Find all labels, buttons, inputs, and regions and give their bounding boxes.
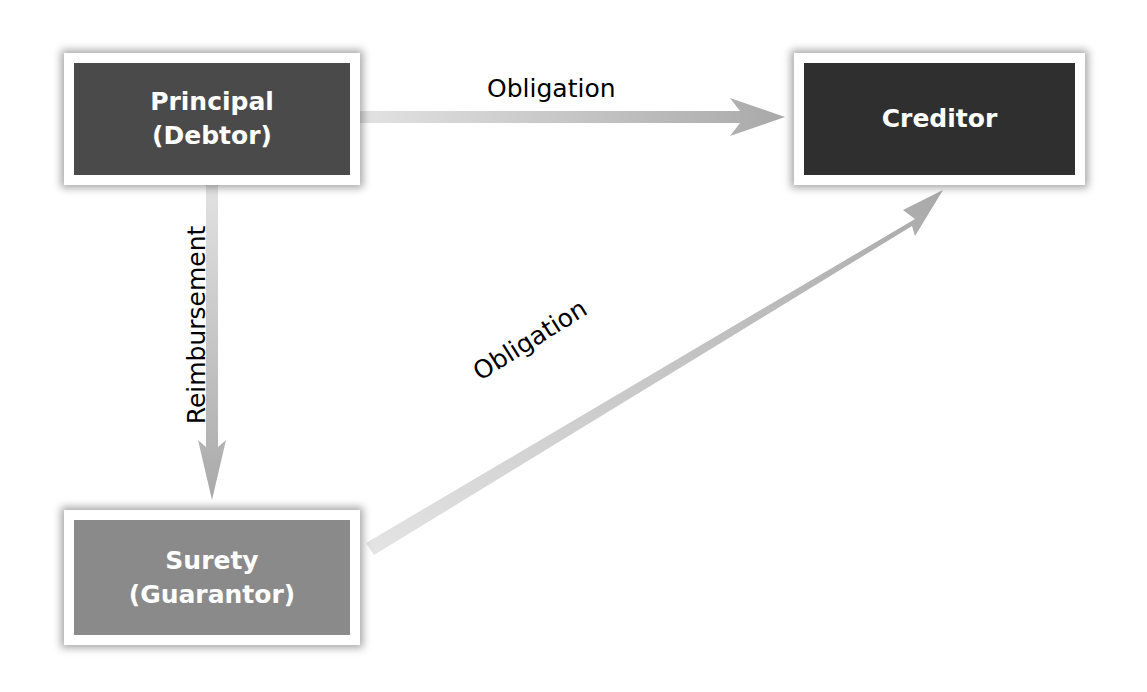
node-principal-subtitle: (Debtor) xyxy=(152,119,272,153)
node-principal-title: Principal xyxy=(150,85,274,119)
edge-label-reimbursement: Reimbursement xyxy=(182,226,211,425)
node-principal-debtor: Principal (Debtor) xyxy=(64,53,360,185)
node-surety-guarantor: Surety (Guarantor) xyxy=(64,510,360,645)
node-principal-fill: Principal (Debtor) xyxy=(74,63,350,175)
node-creditor-title: Creditor xyxy=(882,102,998,136)
node-creditor-fill: Creditor xyxy=(804,63,1075,175)
edge-label-obligation-principal-creditor: Obligation xyxy=(487,74,616,103)
arrow-surety-to-creditor xyxy=(366,190,943,555)
node-surety-subtitle: (Guarantor) xyxy=(129,578,296,612)
node-surety-title: Surety xyxy=(165,544,258,578)
arrow-principal-to-creditor xyxy=(360,98,785,136)
node-creditor: Creditor xyxy=(794,53,1085,185)
node-surety-fill: Surety (Guarantor) xyxy=(74,520,350,635)
